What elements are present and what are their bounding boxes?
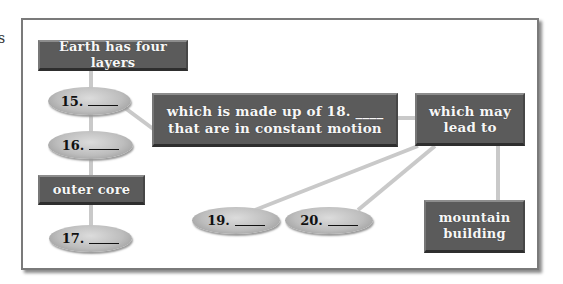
node-earth-has-four-layers: Earth has four layers	[38, 40, 188, 71]
answer-blank[interactable]	[89, 148, 119, 150]
answer-blank[interactable]	[89, 242, 119, 244]
node-made-up-of-plates: which is made up of 18. ____ that are in…	[152, 93, 398, 147]
answer-oval-20[interactable]: 20.	[285, 207, 373, 234]
answer-blank[interactable]	[88, 104, 118, 106]
question-number: 17.	[62, 231, 85, 246]
node-which-may-lead-to: which may lead to	[415, 93, 525, 146]
node-outer-core: outer core	[38, 175, 145, 205]
node-label: outer core	[53, 182, 130, 198]
answer-oval-17[interactable]: 17.	[49, 225, 132, 252]
node-label-line2: lead to	[443, 119, 496, 135]
question-number: 15.	[61, 94, 84, 109]
answer-oval-16[interactable]: 16.	[48, 131, 133, 159]
answer-oval-19[interactable]: 19.	[192, 207, 280, 234]
node-label-line1: mountain	[439, 210, 511, 226]
question-number: 20.	[300, 213, 323, 228]
node-label-line1: which may	[429, 103, 511, 119]
answer-blank[interactable]	[328, 224, 358, 226]
answer-blank[interactable]	[235, 224, 265, 226]
node-mountain-building: mountain building	[424, 200, 525, 253]
answer-oval-15[interactable]: 15.	[48, 87, 131, 115]
question-number: 16.	[62, 138, 85, 153]
node-label: Earth has four layers	[40, 39, 186, 70]
question-number: 19.	[207, 213, 230, 228]
node-label-line2: that are in constant motion	[168, 120, 382, 136]
node-label-line2: building	[443, 226, 506, 242]
node-label-line1: which is made up of 18. ____	[167, 103, 384, 119]
